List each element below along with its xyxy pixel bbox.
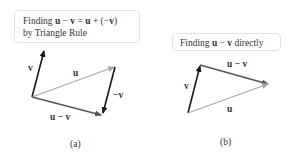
vector-diagram: v u −v u − v v u − v u	[0, 0, 297, 160]
vector-v-arrow	[188, 66, 200, 113]
panel-a-label: (a)	[70, 139, 81, 149]
label-u-minus-v: u − v	[50, 112, 70, 122]
panel-b-diagram: v u − v u	[184, 59, 268, 114]
label-v: v	[184, 81, 189, 91]
label-neg-v: −v	[113, 90, 123, 100]
panel-a-diagram: v u −v u − v	[28, 51, 123, 122]
label-v: v	[28, 63, 33, 73]
vector-v-arrow	[32, 51, 44, 97]
label-u: u	[73, 68, 79, 78]
label-u: u	[227, 104, 233, 114]
label-u-minus-v: u − v	[227, 59, 247, 69]
panel-b-label: (b)	[220, 137, 231, 147]
